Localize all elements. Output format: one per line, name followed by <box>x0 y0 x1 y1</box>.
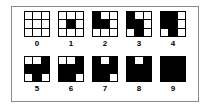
pattern-square-r2-c0 <box>93 29 100 36</box>
pattern-square-r0-c0 <box>93 12 100 19</box>
pattern-square-r2-c1 <box>67 29 74 36</box>
pattern-square-r0-c0 <box>25 57 32 64</box>
digit-label: 0 <box>35 39 39 49</box>
pattern-square-r2-c0 <box>160 73 169 82</box>
pattern-square-r1-c2 <box>42 65 49 72</box>
pattern-square-r0-c2 <box>76 57 83 64</box>
pattern-square-r2-c2 <box>144 29 151 36</box>
pattern-square-r0-c0 <box>160 56 169 65</box>
pattern-square-r2-c0 <box>25 74 32 81</box>
digit-label: 9 <box>171 84 175 94</box>
digit-pattern-row: 01234 <box>11 11 199 56</box>
pattern-grid-9 <box>160 56 186 82</box>
pattern-square-r1-c0 <box>59 65 66 72</box>
pattern-grid-4 <box>160 11 186 37</box>
pattern-square-r0-c2 <box>144 12 151 19</box>
pattern-square-r1-c2 <box>76 65 83 72</box>
pattern-square-r0-c0 <box>127 57 134 64</box>
pattern-square-r0-c2 <box>42 12 49 19</box>
digit-label: 7 <box>103 84 107 94</box>
pattern-square-r1-c1 <box>67 65 74 72</box>
digit-cell-5: 5 <box>24 56 50 94</box>
pattern-square-r2-c2 <box>144 74 151 81</box>
pattern-square-r1-c1 <box>169 20 176 27</box>
pattern-grid-0 <box>24 11 50 37</box>
pattern-grid-8 <box>126 56 152 82</box>
pattern-square-r2-c0 <box>25 29 32 36</box>
pattern-grid-3 <box>126 11 152 37</box>
pattern-square-r0-c2 <box>178 12 185 19</box>
pattern-square-r1-c1 <box>101 65 108 72</box>
digit-label: 3 <box>137 39 141 49</box>
pattern-square-r1-c2 <box>76 20 83 27</box>
digit-label: 8 <box>137 84 141 94</box>
pattern-square-r1-c0 <box>127 65 134 72</box>
digit-cell-7: 7 <box>92 56 118 94</box>
pattern-square-r1-c0 <box>93 65 100 72</box>
pattern-square-r0-c1 <box>101 57 108 64</box>
pattern-grid-1 <box>58 11 84 37</box>
pattern-square-r0-c1 <box>67 57 74 64</box>
pattern-square-r1-c0 <box>93 20 100 27</box>
pattern-square-r0-c0 <box>59 12 66 19</box>
pattern-square-r1-c0 <box>161 20 168 27</box>
pattern-square-r1-c0 <box>25 65 32 72</box>
pattern-square-r0-c1 <box>33 12 40 19</box>
pattern-square-r0-c1 <box>101 12 108 19</box>
pattern-square-r1-c1 <box>169 65 178 74</box>
pattern-square-r0-c1 <box>67 12 74 19</box>
digit-label: 5 <box>35 84 39 94</box>
pattern-square-r2-c2 <box>76 74 83 81</box>
pattern-square-r0-c2 <box>177 56 186 65</box>
digit-label: 2 <box>103 39 107 49</box>
pattern-square-r2-c1 <box>169 73 178 82</box>
pattern-grid-2 <box>92 11 118 37</box>
pattern-grid-7 <box>92 56 118 82</box>
pattern-square-r0-c2 <box>76 12 83 19</box>
pattern-square-r1-c0 <box>127 20 134 27</box>
pattern-square-r2-c1 <box>67 74 74 81</box>
pattern-square-r2-c2 <box>110 74 117 81</box>
pattern-square-r1-c2 <box>110 20 117 27</box>
pattern-square-r2-c1 <box>169 29 176 36</box>
pattern-square-r1-c2 <box>110 65 117 72</box>
pattern-square-r1-c2 <box>42 20 49 27</box>
pattern-square-r0-c0 <box>161 12 168 19</box>
pattern-square-r1-c2 <box>144 65 151 72</box>
pattern-square-r0-c2 <box>42 57 49 64</box>
pattern-square-r2-c2 <box>42 74 49 81</box>
pattern-square-r2-c0 <box>93 74 100 81</box>
pattern-square-r2-c2 <box>110 29 117 36</box>
digit-cell-4: 4 <box>160 11 186 49</box>
pattern-square-r2-c1 <box>135 29 142 36</box>
pattern-square-r2-c0 <box>127 29 134 36</box>
digit-cell-1: 1 <box>58 11 84 49</box>
pattern-square-r2-c2 <box>177 73 186 82</box>
pattern-square-r0-c0 <box>59 57 66 64</box>
pattern-square-r0-c1 <box>33 57 40 64</box>
digit-label: 6 <box>69 84 73 94</box>
pattern-square-r2-c0 <box>59 74 66 81</box>
digit-pattern-figure: 0123456789 <box>0 0 216 112</box>
pattern-square-r1-c1 <box>33 65 40 72</box>
pattern-square-r2-c2 <box>76 29 83 36</box>
pattern-square-r0-c0 <box>127 12 134 19</box>
pattern-square-r2-c1 <box>33 74 40 81</box>
pattern-square-r2-c1 <box>135 74 142 81</box>
pattern-square-r1-c2 <box>144 20 151 27</box>
pattern-square-r2-c2 <box>42 29 49 36</box>
pattern-square-r2-c1 <box>101 74 108 81</box>
pattern-square-r0-c2 <box>144 57 151 64</box>
pattern-square-r0-c0 <box>93 57 100 64</box>
digit-cell-8: 8 <box>126 56 152 94</box>
pattern-square-r1-c1 <box>67 20 74 27</box>
pattern-square-r0-c1 <box>135 12 142 19</box>
pattern-square-r1-c2 <box>177 65 186 74</box>
digit-label: 1 <box>69 39 73 49</box>
digit-pattern-rows: 0123456789 <box>11 6 199 102</box>
pattern-square-r0-c1 <box>169 56 178 65</box>
pattern-square-r2-c1 <box>33 29 40 36</box>
pattern-square-r1-c0 <box>160 65 169 74</box>
pattern-square-r2-c0 <box>161 29 168 36</box>
pattern-square-r2-c2 <box>178 29 185 36</box>
